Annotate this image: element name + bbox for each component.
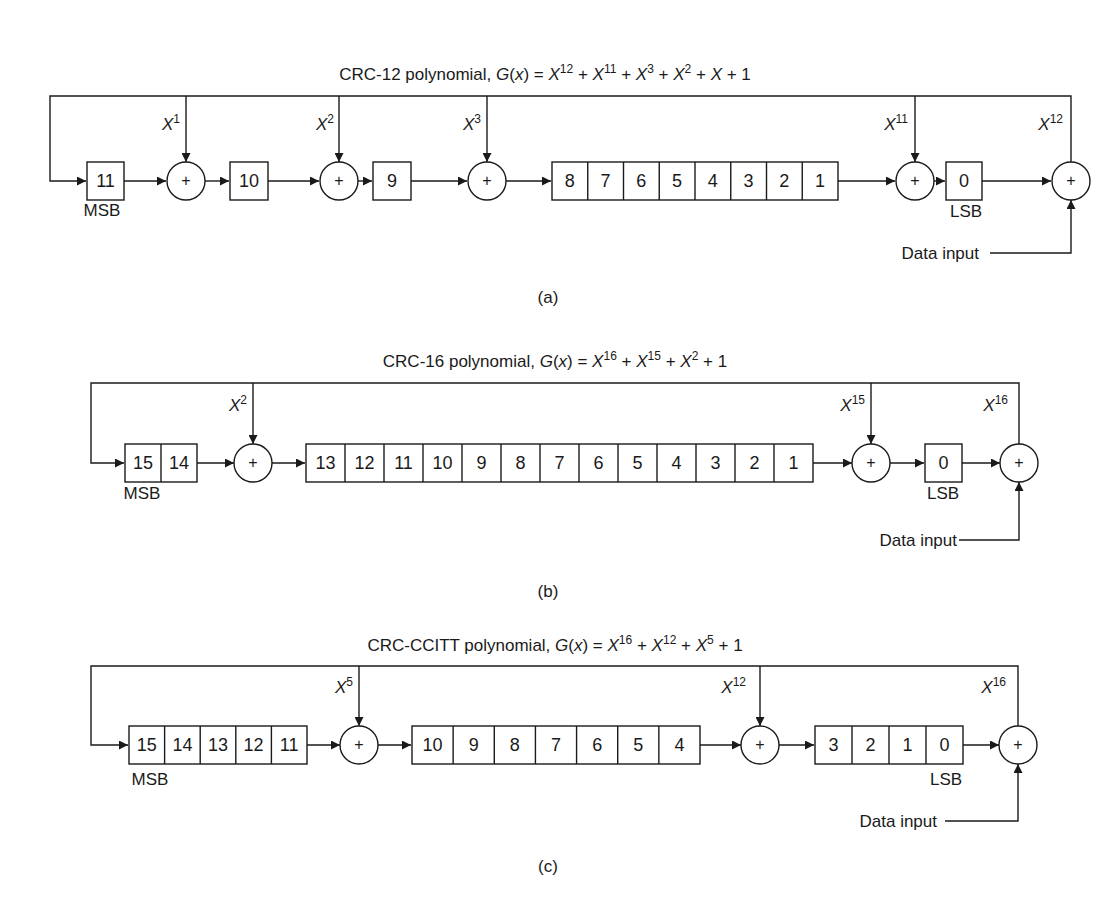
tap-label-x2: X2 (228, 393, 247, 415)
register-cell: 7 (551, 735, 561, 755)
register-cell: 5 (632, 453, 642, 473)
plus-symbol: + (910, 172, 919, 189)
plus-symbol: + (248, 454, 257, 471)
register-cell: 8 (515, 453, 525, 473)
tap-label-x12: X12 (720, 675, 746, 697)
register-cell: 8 (565, 171, 575, 191)
register-cell: 11 (280, 735, 299, 755)
tap-label-x3: X3 (462, 112, 481, 134)
register-cell: 9 (469, 735, 479, 755)
register-cell: 14 (169, 453, 189, 473)
lsb-label: LSB (930, 770, 962, 789)
register-cell: 11 (96, 171, 115, 191)
panel-b-title: CRC-16 polynomial, G(x) = X16 + X15 + X2… (383, 349, 727, 371)
tap-label-x5: X5 (334, 675, 353, 697)
register-cell: 4 (708, 171, 718, 191)
msb-label: MSB (124, 484, 161, 503)
register-cell: 8 (510, 735, 520, 755)
tap-label-x16: X16 (980, 675, 1006, 697)
data-input-label: Data input (902, 244, 980, 263)
register-cell: 1 (788, 453, 798, 473)
register-cell: 5 (633, 735, 643, 755)
tap-label-x12: X12 (1037, 112, 1063, 134)
register-cell: 9 (476, 453, 486, 473)
tap-label-x16: X16 (982, 393, 1008, 415)
register-cell: 3 (710, 453, 720, 473)
register-cell: 5 (672, 171, 682, 191)
register-cell: 14 (172, 735, 192, 755)
plus-symbol: + (866, 454, 875, 471)
plus-symbol: + (1014, 454, 1023, 471)
register-cell: 9 (387, 171, 397, 191)
plus-symbol: + (1013, 736, 1022, 753)
register-cell: 2 (779, 171, 789, 191)
register-cell: 0 (938, 453, 948, 473)
register-cell: 13 (315, 453, 335, 473)
msb-label: MSB (132, 770, 169, 789)
register-cell: 1 (815, 171, 825, 191)
register-cell: 4 (674, 735, 684, 755)
tap-label-x15: X15 (839, 393, 865, 415)
tap-label-x11: X11 (883, 112, 908, 134)
caption-c: (c) (538, 857, 558, 876)
crc-diagram: CRC-12 polynomial, G(x) = X12 + X11 + X3… (0, 0, 1098, 897)
register-cell: 0 (959, 171, 969, 191)
data-input-line (990, 200, 1071, 253)
msb-label: MSB (84, 201, 121, 220)
lsb-label: LSB (950, 202, 982, 221)
register-cell: 7 (554, 453, 564, 473)
register-cell: 13 (208, 735, 228, 755)
register-cell: 6 (636, 171, 646, 191)
plus-symbol: + (755, 736, 764, 753)
panel-a-title: CRC-12 polynomial, G(x) = X12 + X11 + X3… (339, 62, 751, 84)
register-cell: 7 (601, 171, 611, 191)
register-cell: 10 (432, 453, 452, 473)
register-cell: 3 (744, 171, 754, 191)
caption-a: (a) (538, 288, 559, 307)
register-cell: 10 (423, 735, 443, 755)
register-cell: 4 (671, 453, 681, 473)
caption-b: (b) (538, 582, 559, 601)
tap-label-x1: X1 (161, 112, 180, 134)
data-input-label: Data input (860, 812, 938, 831)
plus-symbol: + (354, 736, 363, 753)
data-input-label: Data input (880, 531, 958, 550)
register-cell: 0 (939, 735, 949, 755)
plus-symbol: + (1066, 172, 1075, 189)
register-cell: 12 (244, 735, 264, 755)
plus-symbol: + (482, 172, 491, 189)
register-cell: 2 (749, 453, 759, 473)
register-cell: 10 (239, 171, 259, 191)
register-cell: 6 (593, 453, 603, 473)
register-cell: 2 (865, 735, 875, 755)
register-cell: 1 (902, 735, 912, 755)
register-cell: 12 (354, 453, 374, 473)
register-cell: 15 (133, 453, 153, 473)
plus-symbol: + (181, 172, 190, 189)
register-cell: 15 (137, 735, 157, 755)
data-input-line (959, 482, 1019, 540)
lsb-label: LSB (927, 484, 959, 503)
plus-symbol: + (334, 172, 343, 189)
register-cell: 11 (394, 453, 413, 473)
register-cell: 6 (592, 735, 602, 755)
panel-c-title: CRC-CCITT polynomial, G(x) = X16 + X12 +… (367, 633, 742, 655)
tap-label-x2: X2 (315, 112, 334, 134)
register-cell: 3 (828, 735, 838, 755)
